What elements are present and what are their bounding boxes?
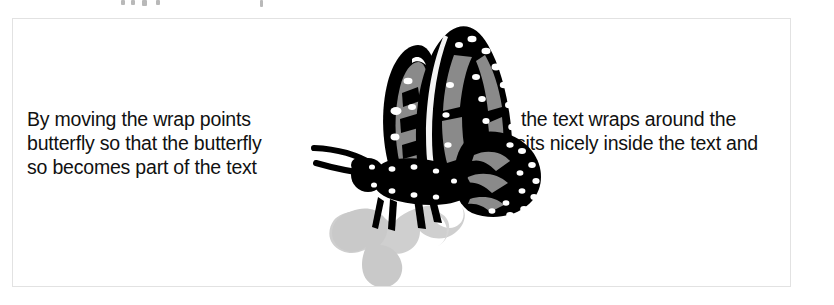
text-line: butterfly so that the butterfly bbox=[27, 131, 261, 155]
text-line: By moving the wrap points bbox=[27, 107, 261, 131]
text-fragment bbox=[121, 0, 125, 5]
wrapped-text-left: By moving the wrap points butterfly so t… bbox=[27, 107, 261, 179]
text-fragment bbox=[142, 0, 147, 6]
text-fragment bbox=[260, 0, 263, 7]
hindwing-icon bbox=[454, 132, 541, 218]
cast-shadow-icon bbox=[329, 205, 464, 287]
text-line: so becomes part of the text bbox=[27, 155, 261, 179]
clipped-text-above-figure bbox=[0, 0, 834, 10]
figure-frame: By moving the wrap points butterfly so t… bbox=[12, 18, 791, 287]
butterfly-illustration bbox=[296, 18, 566, 287]
eye-icon bbox=[351, 158, 365, 172]
text-fragment bbox=[131, 0, 135, 5]
text-fragment bbox=[156, 0, 160, 5]
